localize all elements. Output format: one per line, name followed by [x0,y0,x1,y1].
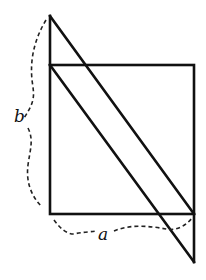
label-a: a [98,226,108,243]
upper-diagonal [50,16,194,214]
square [50,65,194,214]
brace-b [24,20,46,207]
lower-diagonal [50,65,194,262]
label-b: b [14,108,25,125]
